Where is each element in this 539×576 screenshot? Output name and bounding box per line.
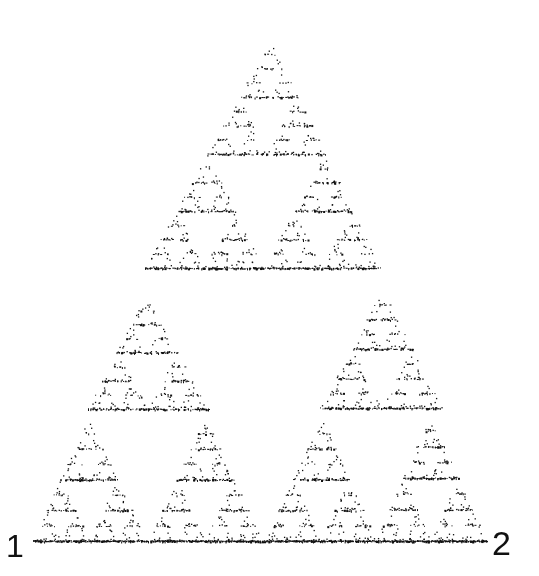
corner-label-1: 1: [6, 530, 24, 562]
sierpinski-fractal-canvas: [0, 0, 539, 576]
fractal-figure: [0, 0, 539, 576]
corner-label-2: 2: [492, 526, 511, 560]
